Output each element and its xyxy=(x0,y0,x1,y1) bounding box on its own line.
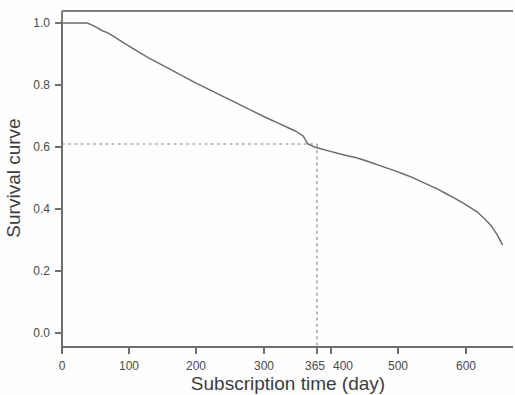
x-tick-label: 500 xyxy=(388,359,408,373)
x-tick-label-365: 365 xyxy=(305,359,325,373)
y-tick-label: 1.0 xyxy=(33,16,50,30)
x-tick-label: 200 xyxy=(186,359,206,373)
y-axis-ticks xyxy=(55,23,62,333)
survival-curve-figure: 1.0 0.8 0.6 0.4 0.2 0.0 0 100 200 300 36… xyxy=(0,0,515,395)
x-axis-ticks xyxy=(62,347,466,354)
x-tick-label: 100 xyxy=(119,359,139,373)
x-tick-label: 300 xyxy=(254,359,274,373)
x-tick-label: 600 xyxy=(456,359,476,373)
y-tick-label: 0.8 xyxy=(33,78,50,92)
y-axis-tick-labels: 1.0 0.8 0.6 0.4 0.2 0.0 xyxy=(33,16,50,340)
x-tick-label: 0 xyxy=(59,359,66,373)
survival-curve-chart: 1.0 0.8 0.6 0.4 0.2 0.0 0 100 200 300 36… xyxy=(0,0,515,395)
x-axis-tick-labels: 0 100 200 300 365 400 500 600 xyxy=(59,359,477,373)
y-tick-label: 0.2 xyxy=(33,264,50,278)
x-axis-title: Subscription time (day) xyxy=(191,373,385,394)
y-axis-title: Survival curve xyxy=(3,118,24,237)
x-tick-label: 400 xyxy=(333,359,353,373)
y-tick-label: 0.4 xyxy=(33,202,50,216)
survival-curve-line xyxy=(62,23,502,245)
y-tick-label: 0.6 xyxy=(33,140,50,154)
y-tick-label: 0.0 xyxy=(33,326,50,340)
